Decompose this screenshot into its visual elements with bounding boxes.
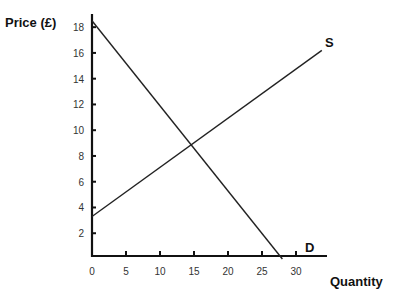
x-tick-label: 5 [123,266,129,277]
x-tick-label: 20 [222,266,234,277]
x-axis-label: Quantity [330,274,383,289]
y-tick-label: 6 [78,177,84,188]
x-tick-label: 25 [256,266,268,277]
x-tick-label: 10 [154,266,166,277]
supply-label: S [325,35,334,50]
demand-line [92,21,282,259]
y-tick-label: 14 [73,74,85,85]
y-tick-label: 2 [78,228,84,239]
demand-label: D [305,240,314,255]
y-tick-label: 4 [78,202,84,213]
x-tick-label: 30 [290,266,302,277]
y-tick-label: 16 [73,48,85,59]
y-tick-label: 12 [73,99,85,110]
y-tick-label: 8 [78,151,84,162]
y-tick-label: 18 [73,22,85,33]
y-axis-label: Price (£) [5,15,56,30]
x-tick-label: 0 [89,266,95,277]
y-tick-label: 10 [73,125,85,136]
supply-line [92,50,322,216]
supply-demand-chart: 24681012141618051015202530Price (£)Quant… [0,0,393,299]
x-tick-label: 15 [188,266,200,277]
